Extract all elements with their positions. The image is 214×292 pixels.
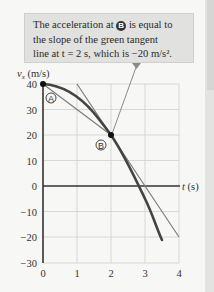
svg-text:−10: −10 xyxy=(21,207,37,218)
callout-pointer-line xyxy=(112,66,137,134)
x-axis-label: t (s) xyxy=(182,181,199,193)
svg-text:40: 40 xyxy=(27,79,38,90)
y-tick-labels: 40 30 20 10 0 −10 −20 −30 xyxy=(21,79,37,269)
x-tick-labels: 0 1 2 3 4 xyxy=(40,268,182,279)
svg-text:−20: −20 xyxy=(21,232,37,243)
svg-text:B: B xyxy=(98,141,104,151)
point-a-dot xyxy=(40,81,46,87)
svg-text:30: 30 xyxy=(27,105,38,116)
point-b-dot xyxy=(108,132,114,138)
svg-text:4: 4 xyxy=(176,268,182,279)
svg-text:0: 0 xyxy=(40,268,45,279)
svg-text:A: A xyxy=(48,94,54,104)
grid xyxy=(43,84,179,263)
svg-text:1: 1 xyxy=(74,268,79,279)
svg-text:2: 2 xyxy=(108,268,113,279)
velocity-chart: A B 40 30 20 10 0 −10 −20 −30 0 1 2 3 4 … xyxy=(0,0,214,292)
velocity-curve xyxy=(43,84,162,240)
svg-text:0: 0 xyxy=(32,181,37,192)
svg-text:10: 10 xyxy=(27,156,38,167)
svg-text:20: 20 xyxy=(27,130,38,141)
svg-text:3: 3 xyxy=(142,268,147,279)
svg-text:−30: −30 xyxy=(21,258,37,269)
